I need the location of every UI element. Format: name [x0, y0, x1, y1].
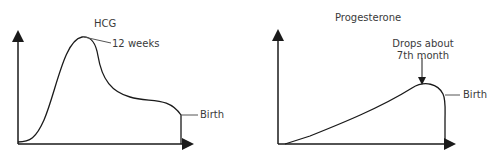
hcg-birth-label: Birth	[200, 109, 224, 121]
hcg-axes	[18, 36, 188, 144]
hormone-curves	[0, 0, 492, 157]
hcg-peak-label: 12 weeks	[112, 38, 159, 50]
progesterone-peak-label-2: 7th month	[390, 50, 456, 62]
progesterone-curve	[285, 84, 445, 144]
hcg-peak-leader	[84, 37, 111, 43]
progesterone-birth-label: Birth	[463, 89, 487, 101]
hcg-title: HCG	[94, 18, 116, 30]
hcg-curve	[18, 37, 181, 144]
progesterone-title: Progesterone	[335, 12, 401, 24]
progesterone-peak-label-1: Drops about	[390, 38, 456, 50]
